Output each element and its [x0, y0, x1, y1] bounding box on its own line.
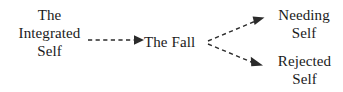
node-the-fall: The Fall — [144, 33, 206, 51]
edge-fall-to-needing-arrowhead — [253, 16, 265, 25]
edge-fall-to-rejected-arrowhead — [251, 57, 263, 66]
edge-integrated-to-fall-arrowhead — [134, 35, 144, 45]
edge-fall-to-needing-line — [208, 22, 255, 42]
node-needing-self: Needing Self — [266, 6, 342, 42]
edge-fall-to-rejected — [208, 44, 263, 66]
node-integrated-self: The Integrated Self — [2, 6, 97, 60]
edge-fall-to-needing — [208, 16, 265, 41]
diagram-canvas: The Integrated Self The Fall Needing Sel… — [0, 0, 343, 92]
node-rejected-self: Rejected Self — [266, 52, 343, 88]
edge-fall-to-rejected-line — [208, 44, 253, 63]
